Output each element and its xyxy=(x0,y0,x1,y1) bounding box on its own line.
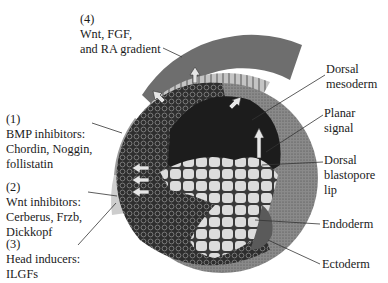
label-line: Cerberus, Frzb, xyxy=(6,210,82,225)
label-line: Wnt, FGF, xyxy=(80,27,161,42)
label-line: mesoderm xyxy=(326,77,377,92)
label-line: Dorsal xyxy=(326,62,377,77)
label-line: (4) xyxy=(80,12,161,27)
label-line: (1) xyxy=(6,112,92,127)
label-line: (2) xyxy=(6,180,82,195)
label-line: and RA gradient xyxy=(80,42,161,57)
label-bmp-inhibitors: (1) BMP inhibitors: Chordin, Noggin, fol… xyxy=(6,112,92,172)
label-line: (3) xyxy=(6,237,80,252)
label-line: Head inducers: xyxy=(6,252,80,267)
label-wnt-fgf-ra-gradient: (4) Wnt, FGF, and RA gradient xyxy=(80,12,161,57)
label-line: follistatin xyxy=(6,157,92,172)
label-dorsal-blastopore-lip: Dorsal blastopore lip xyxy=(324,153,375,198)
label-line: Wnt inhibitors: xyxy=(6,195,82,210)
label-line: blastopore xyxy=(324,168,375,183)
label-line: Endoderm xyxy=(322,217,373,232)
label-line: Dorsal xyxy=(324,153,375,168)
label-line: Chordin, Noggin, xyxy=(6,142,92,157)
label-wnt-inhibitors: (2) Wnt inhibitors: Cerberus, Frzb, Dick… xyxy=(6,180,82,240)
label-line: Planar xyxy=(324,106,355,121)
label-line: BMP inhibitors: xyxy=(6,127,92,142)
label-ectoderm: Ectoderm xyxy=(322,257,370,272)
label-line: lip xyxy=(324,183,375,198)
label-head-inducers: (3) Head inducers: ILGFs xyxy=(6,237,80,282)
label-endoderm: Endoderm xyxy=(322,217,373,232)
label-line: Ectoderm xyxy=(322,257,370,272)
label-dorsal-mesoderm: Dorsal mesoderm xyxy=(326,62,377,92)
label-line: signal xyxy=(324,121,355,136)
label-line: ILGFs xyxy=(6,267,80,282)
label-planar-signal: Planar signal xyxy=(324,106,355,136)
